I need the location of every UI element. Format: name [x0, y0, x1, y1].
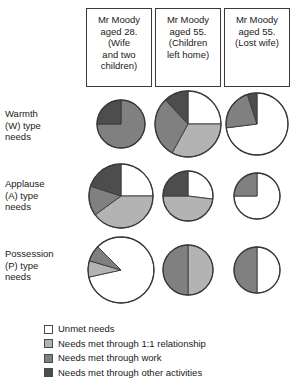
- column-header-label: Mr Moody aged 55. (Lost wife): [235, 14, 279, 49]
- pie-slice-relationship: Needs met through 1:1 relationship: 50%: [188, 245, 213, 295]
- legend-swatch-work: [44, 354, 53, 363]
- pie-warmth-aged-28: Needs met through work: 75%Needs met thr…: [95, 98, 147, 150]
- column-header-label: Mr Moody aged 55. (Children left home): [167, 14, 209, 60]
- pie-applause-aged-55-lost-wife: Unmet needs: 75%Needs met through work: …: [232, 171, 282, 221]
- legend-item-other: Needs met through other activities: [44, 366, 300, 381]
- legend: Unmet needsNeeds met through 1:1 relatio…: [44, 322, 300, 380]
- legend-swatch-relationship: [44, 339, 53, 348]
- needs-pie-chart-figure: Mr Moody aged 28. (Wife and two children…: [0, 0, 304, 387]
- pie-applause-aged-28: Unmet needs: 25%Needs met through 1:1 re…: [87, 162, 155, 230]
- pie-warmth-aged-55-lost-wife: Unmet needs: 73%Needs met through work: …: [224, 91, 290, 157]
- row-label-warmth: Warmth (W) type needs: [5, 108, 83, 143]
- legend-label: Needs met through 1:1 relationship: [58, 339, 206, 349]
- column-header-row: Mr Moody aged 28. (Wife and two children…: [0, 0, 304, 92]
- legend-item-relationship: Needs met through 1:1 relationship: [44, 337, 300, 352]
- legend-label: Needs met through work: [58, 353, 162, 363]
- pie-possession-aged-55-children-left-home: Needs met through 1:1 relationship: 50%N…: [161, 243, 215, 297]
- pie-slice-unmet: Unmet needs: 27%: [188, 171, 213, 199]
- legend-swatch-unmet: [44, 325, 53, 334]
- column-header-aged-28: Mr Moody aged 28. (Wife and two children…: [86, 8, 152, 87]
- legend-item-work: Needs met through work: [44, 351, 300, 366]
- column-header-aged-55-lost-wife: Mr Moody aged 55. (Lost wife): [224, 8, 290, 87]
- pie-slice-unmet: Unmet needs: 50%: [257, 247, 280, 293]
- column-header-aged-55-children-left-home: Mr Moody aged 55. (Children left home): [155, 8, 221, 87]
- pie-warmth-aged-55-children-left-home: Unmet needs: 25%Needs met through 1:1 re…: [153, 89, 223, 159]
- pie-slice-work: Needs met through work: 50%: [234, 247, 257, 293]
- pie-slice-work: Needs met through work: 50%: [163, 245, 188, 295]
- pie-possession-aged-28: Unmet needs: 84%Needs met through 1:1 re…: [86, 235, 156, 305]
- legend-swatch-other: [44, 368, 53, 377]
- legend-label: Needs met through other activities: [58, 368, 202, 378]
- pie-applause-aged-55-children-left-home: Unmet needs: 27%Needs met through 1:1 re…: [161, 169, 215, 223]
- column-header-label: Mr Moody aged 28. (Wife and two children…: [98, 14, 140, 72]
- pie-slice-relationship: Needs met through 1:1 relationship: 48%: [163, 196, 213, 221]
- legend-item-unmet: Unmet needs: [44, 322, 300, 337]
- row-label-applause: Applause (A) type needs: [5, 178, 83, 213]
- legend-label: Unmet needs: [58, 324, 115, 334]
- row-label-possession: Possession (P) type needs: [5, 248, 83, 283]
- pie-possession-aged-55-lost-wife: Unmet needs: 50%Needs met through work: …: [232, 245, 282, 295]
